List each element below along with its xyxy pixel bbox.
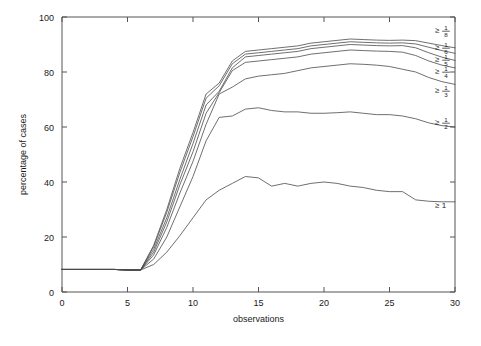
x-tick-label: 30 — [450, 298, 460, 308]
x-tick-label: 20 — [319, 298, 329, 308]
series-line-ge-one-half — [62, 108, 455, 270]
chart-figure: 051015202530observations020406080100perc… — [0, 0, 481, 346]
greater-equal-icon: ≥ — [435, 43, 440, 52]
series-line-ge-one-fifth — [62, 45, 455, 271]
x-tick-label: 15 — [253, 298, 263, 308]
series-line-ge-one-third — [62, 64, 455, 270]
x-tick-label: 5 — [125, 298, 130, 308]
series-line-ge-one — [62, 177, 455, 271]
series-line-ge-one-eighth — [62, 39, 455, 270]
line-chart-svg: 051015202530observations020406080100perc… — [0, 0, 481, 346]
fraction-numerator: 1 — [444, 24, 448, 31]
y-tick-label: 80 — [44, 68, 54, 78]
greater-equal-icon: ≥ — [435, 118, 440, 127]
fraction-numerator: 1 — [444, 116, 448, 123]
fraction-numerator: 1 — [444, 84, 448, 91]
y-tick-label: 60 — [44, 123, 54, 133]
y-tick-label: 100 — [39, 13, 54, 23]
x-tick-label: 10 — [188, 298, 198, 308]
plot-frame — [62, 17, 455, 292]
fraction-numerator: 1 — [444, 41, 448, 48]
series-label-ge-one-eighth: ≥18 — [435, 24, 450, 38]
x-tick-label: 25 — [384, 298, 394, 308]
series-label-ge-one-fourth: ≥14 — [435, 65, 450, 79]
series-label-ge-one-third: ≥13 — [435, 84, 450, 98]
greater-equal-icon: ≥ — [435, 55, 440, 64]
fraction-denominator: 4 — [444, 72, 448, 79]
series-label-value: 1 — [442, 201, 447, 210]
fraction-denominator: 2 — [444, 123, 448, 130]
fraction-numerator: 1 — [444, 53, 448, 60]
greater-equal-icon: ≥ — [435, 67, 440, 76]
series-label-ge-one-half: ≥12 — [435, 116, 450, 130]
y-tick-label: 20 — [44, 233, 54, 243]
y-tick-label: 0 — [49, 288, 54, 298]
greater-equal-icon: ≥ — [435, 86, 440, 95]
series-line-ge-one-fourth — [62, 50, 455, 270]
x-axis-title: observations — [233, 314, 285, 324]
y-tick-label: 40 — [44, 178, 54, 188]
fraction-numerator: 1 — [444, 65, 448, 72]
series-label-ge-one: ≥1 — [435, 201, 447, 210]
x-tick-label: 0 — [59, 298, 64, 308]
fraction-denominator: 8 — [444, 31, 448, 38]
greater-equal-icon: ≥ — [435, 26, 440, 35]
y-axis-title: percentage of cases — [18, 113, 28, 195]
fraction-denominator: 3 — [444, 91, 448, 98]
greater-equal-icon: ≥ — [435, 201, 440, 210]
